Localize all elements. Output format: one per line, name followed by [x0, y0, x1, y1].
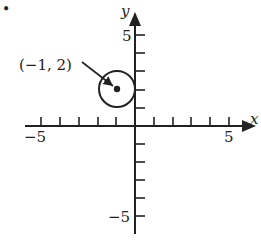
y-max-label: 5: [122, 27, 132, 45]
y-min-label: −5: [108, 208, 130, 226]
plane-svg: • y x 5 −5 −5 5 (−1, 2): [0, 0, 261, 240]
y-axis-label: y: [120, 2, 130, 20]
x-min-label: −5: [24, 128, 46, 146]
x-axis-label: x: [250, 110, 259, 128]
center-point: [114, 86, 120, 92]
bullet: •: [2, 1, 10, 17]
coordinate-diagram: • y x 5 −5 −5 5 (−1, 2): [0, 0, 261, 240]
center-annotation: (−1, 2): [19, 56, 72, 74]
x-max-label: 5: [224, 128, 234, 146]
